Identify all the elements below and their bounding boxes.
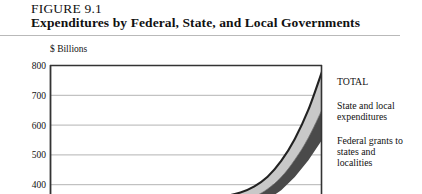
- legend-item-total: TOTAL: [337, 76, 368, 87]
- area-band-federal-grants: [50, 110, 322, 194]
- legend-item-state-and-local-expenditures: State and local expenditures: [337, 100, 395, 122]
- area-band-state-and-local-expenditures: [50, 72, 322, 194]
- legend-item-federal-grants: Federal grants to states and localities: [337, 135, 403, 169]
